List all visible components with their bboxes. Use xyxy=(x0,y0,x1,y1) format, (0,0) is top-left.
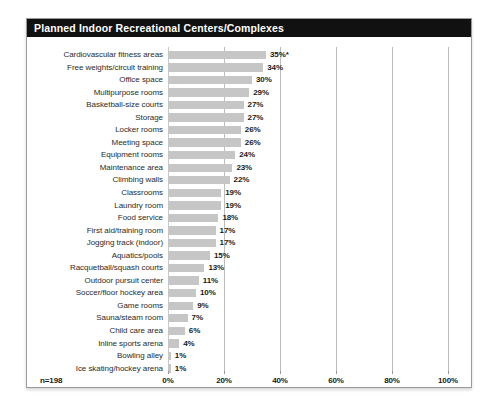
bar-row: Laundry room19% xyxy=(27,200,471,213)
bar-row: Office space30% xyxy=(27,74,471,87)
bar-value-label: 27% xyxy=(248,99,264,112)
bar-track: 24% xyxy=(168,149,469,162)
bar xyxy=(168,239,216,247)
bar xyxy=(168,138,241,146)
bar xyxy=(168,302,193,310)
bar xyxy=(168,88,249,96)
bar-row: Inline sports arena4% xyxy=(27,338,471,351)
bar-row: Bowling alley1% xyxy=(27,350,471,363)
bar-row: Jogging track (indoor)17% xyxy=(27,237,471,250)
bar-row: Racquetball/squash courts13% xyxy=(27,262,471,275)
bar-track: 23% xyxy=(168,162,469,175)
bar-row: Multipurpose rooms29% xyxy=(27,87,471,100)
bar xyxy=(168,352,171,360)
sample-size-footnote: n=198 xyxy=(40,376,62,385)
bar-row: Child care area6% xyxy=(27,325,471,338)
bar-value-label: 34% xyxy=(267,62,283,75)
axis-tick-mark-40 xyxy=(280,371,281,374)
axis-tick-mark-60 xyxy=(336,371,337,374)
bar-value-label: 24% xyxy=(239,149,255,162)
bar xyxy=(168,314,188,322)
bar-track: 26% xyxy=(168,124,469,137)
bar-track: 13% xyxy=(168,262,469,275)
axis-tick-mark-20 xyxy=(224,371,225,374)
bar-rows: Cardiovascular fitness areas35%*Free wei… xyxy=(27,49,471,375)
bar-row: Locker rooms26% xyxy=(27,124,471,137)
bar-track: 35%* xyxy=(168,49,469,62)
bar xyxy=(168,264,204,272)
bar-track: 30% xyxy=(168,74,469,87)
bar-row: Outdoor pursuit center11% xyxy=(27,275,471,288)
bar xyxy=(168,327,185,335)
bar-category-label: Inline sports arena xyxy=(27,338,163,351)
bar-track: 26% xyxy=(168,137,469,150)
bar-category-label: Storage xyxy=(27,112,163,125)
chart-plot-area: Cardiovascular fitness areas35%*Free wei… xyxy=(27,37,471,387)
axis-tick-mark-100 xyxy=(448,371,449,374)
bar-track: 4% xyxy=(168,338,469,351)
bar-value-label: 26% xyxy=(245,124,261,137)
bar-category-label: Equipment rooms xyxy=(27,149,163,162)
bar-track: 15% xyxy=(168,250,469,263)
bar-value-label: 22% xyxy=(234,174,250,187)
bar-row: Maintenance area23% xyxy=(27,162,471,175)
bar-value-label: 11% xyxy=(203,275,218,288)
bar-row: Basketball-size courts27% xyxy=(27,99,471,112)
bar xyxy=(168,189,221,197)
bar-track: 34% xyxy=(168,62,469,75)
bar-value-label: 35%* xyxy=(270,49,289,62)
bar-category-label: Game rooms xyxy=(27,300,163,313)
axis-tick-label: 0% xyxy=(162,376,173,385)
bar-category-label: Basketball-size courts xyxy=(27,99,163,112)
screenshot-root: Planned Indoor Recreational Centers/Comp… xyxy=(0,0,494,407)
bar xyxy=(168,289,196,297)
axis-tick-label: 20% xyxy=(216,376,232,385)
bar-category-label: Jogging track (indoor) xyxy=(27,237,163,250)
bar-value-label: 18% xyxy=(222,212,238,225)
bar-track: 27% xyxy=(168,112,469,125)
bar-category-label: First aid/training room xyxy=(27,225,163,238)
bar-row: Meeting space26% xyxy=(27,137,471,150)
bar-track: 22% xyxy=(168,174,469,187)
bar-row: Classrooms19% xyxy=(27,187,471,200)
bar-value-label: 29% xyxy=(253,87,269,100)
bar xyxy=(168,201,221,209)
bar-category-label: Free weights/circuit training xyxy=(27,62,163,75)
axis-tick-label: 60% xyxy=(328,376,344,385)
bar xyxy=(168,164,232,172)
bar-value-label: 7% xyxy=(192,312,203,325)
bar-category-label: Cardiovascular fitness areas xyxy=(27,49,163,62)
bar-category-label: Child care area xyxy=(27,325,163,338)
bar-track: 17% xyxy=(168,225,469,238)
bar-row: Soccer/floor hockey area10% xyxy=(27,287,471,300)
bar-track: 19% xyxy=(168,200,469,213)
bar xyxy=(168,151,235,159)
bar-category-label: Food service xyxy=(27,212,163,225)
bar-value-label: 4% xyxy=(183,338,194,351)
bar-category-label: Climbing walls xyxy=(27,174,163,187)
page-title: Planned Indoor Recreational Centers/Comp… xyxy=(34,19,284,37)
bar-value-label: 19% xyxy=(225,200,241,213)
bar-category-label: Bowling alley xyxy=(27,350,163,363)
bar xyxy=(168,214,218,222)
bar-track: 6% xyxy=(168,325,469,338)
bar xyxy=(168,51,266,59)
bar-track: 11% xyxy=(168,275,469,288)
bar-row: Cardiovascular fitness areas35%* xyxy=(27,49,471,62)
bar-track: 1% xyxy=(168,350,469,363)
bar-category-label: Meeting space xyxy=(27,137,163,150)
axis-tick-mark-80 xyxy=(392,371,393,374)
bar-track: 18% xyxy=(168,212,469,225)
axis-tick-label: 100% xyxy=(438,376,458,385)
bar-row: Climbing walls22% xyxy=(27,174,471,187)
x-axis: 0%20%40%60%80%100% xyxy=(27,371,471,391)
bar-value-label: 27% xyxy=(248,112,264,125)
bar-row: Free weights/circuit training34% xyxy=(27,62,471,75)
bar xyxy=(168,76,252,84)
bar-value-label: 13% xyxy=(208,262,224,275)
bar-value-label: 19% xyxy=(225,187,241,200)
bar-track: 17% xyxy=(168,237,469,250)
bar-row: Aquatics/pools15% xyxy=(27,250,471,263)
chart-title-bar: Planned Indoor Recreational Centers/Comp… xyxy=(27,19,471,37)
bar xyxy=(168,63,263,71)
